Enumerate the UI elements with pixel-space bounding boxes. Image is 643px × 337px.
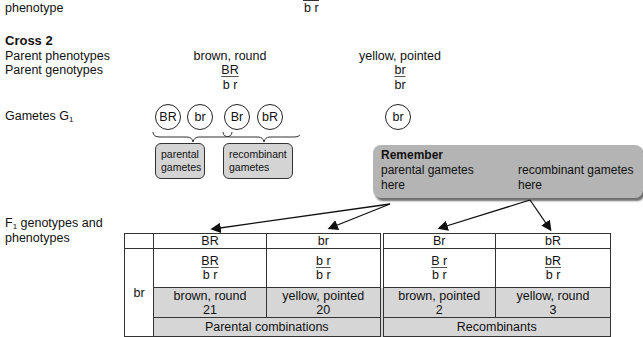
phenotype-cell: yellow, round3 (496, 288, 611, 318)
column-header: Br (382, 234, 496, 249)
genotype-cell: B rb r (382, 249, 496, 288)
summary-row: Parental combinations Recombinants (125, 318, 611, 337)
f1-label: F1 genotypes and phenotypes (5, 216, 103, 245)
phenotype-row: brown, round21 yellow, pointed20 brown, … (125, 288, 611, 318)
genotype-cell: b rb r (267, 249, 382, 288)
column-header: br (267, 234, 382, 249)
recombinants-cell: Recombinants (382, 318, 611, 337)
row-gamete: br (125, 249, 154, 337)
column-header: BR (154, 234, 267, 249)
genotype-row: br BRb r b rb r B rb r bRb r (125, 249, 611, 288)
column-header: bR (496, 234, 611, 249)
phenotype-cell: yellow, pointed20 (267, 288, 382, 318)
parental-combinations-cell: Parental combinations (154, 318, 382, 337)
punnett-table: BR br Br bR br BRb r b rb r B rb r bRb r… (124, 233, 611, 337)
genotype-cell: bRb r (496, 249, 611, 288)
phenotype-cell: brown, pointed2 (382, 288, 496, 318)
genotype-cell: BRb r (154, 249, 267, 288)
corner-cell (125, 234, 154, 249)
phenotype-cell: brown, round21 (154, 288, 267, 318)
table-header-row: BR br Br bR (125, 234, 611, 249)
